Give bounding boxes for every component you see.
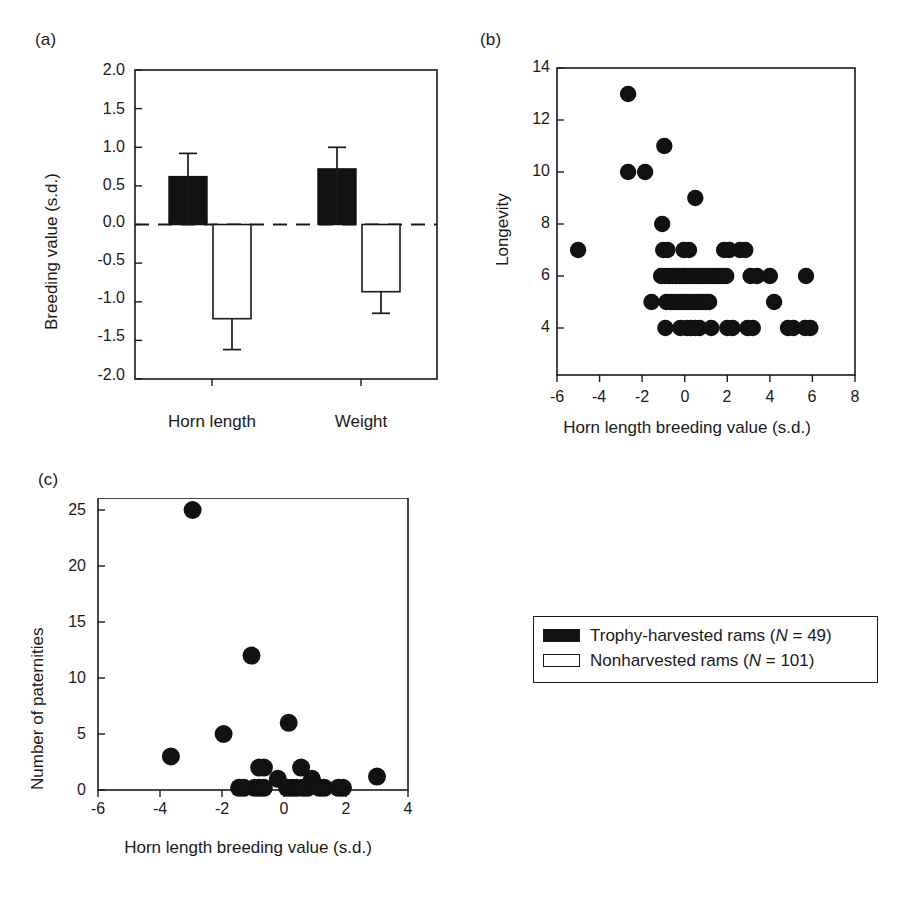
panel-a-ytick-2.0: 2.0 [63, 61, 125, 79]
panel-a-plot [130, 60, 450, 390]
panel-c-xtick-4: 4 [383, 800, 433, 818]
panel-a-category-weight: Weight [286, 412, 436, 432]
panel-b-xtick-8: 8 [830, 388, 880, 406]
panel-a-ytick-1.5: 1.5 [63, 100, 125, 118]
panel-c-ytick-10: 10 [44, 669, 86, 687]
panel-b-y-axis-title: Longevity [493, 193, 513, 266]
legend-swatch-filled-icon [543, 629, 580, 642]
panel-b: (b) Longevity 14 12 10 8 6 4 [460, 0, 914, 450]
legend-swatch-open-icon [543, 654, 580, 667]
panel-a-ytick-1.0: 1.0 [63, 138, 125, 156]
legend-label-trophy-prefix: Trophy-harvested rams ( [590, 626, 775, 645]
panel-b-ytick-14: 14 [512, 58, 550, 76]
legend-label-nonharvested: Nonharvested rams (N = 101) [590, 651, 814, 671]
legend-label-trophy-italic-n: N [775, 626, 787, 645]
panel-c-ytick-0: 0 [44, 781, 86, 799]
panel-c-xtick-2: 2 [321, 800, 371, 818]
panel-b-ytick-6: 6 [512, 266, 550, 284]
panel-b-plot [550, 58, 910, 388]
panel-a-ytick--1.0: -1.0 [58, 289, 125, 307]
panel-b-ytick-8: 8 [512, 214, 550, 232]
panel-a-ytick-0.5: 0.5 [63, 176, 125, 194]
legend-label-nonharvested-prefix: Nonharvested rams ( [590, 651, 749, 670]
panel-c-xtick--6: -6 [73, 800, 123, 818]
legend-label-trophy-suffix: = 49) [788, 626, 832, 645]
panel-b-points [570, 86, 819, 336]
panel-c-letter: (c) [38, 470, 58, 490]
legend-label-nonharvested-suffix: = 101) [761, 651, 814, 670]
panel-a: (a) Breeding value (s.d.) 2.0 1.5 1.0 0.… [0, 0, 460, 450]
errorbar-horn-nonharvested [223, 319, 241, 350]
panel-c-points [162, 501, 386, 797]
panel-c-plot [90, 498, 430, 818]
panel-c-ytick-20: 20 [44, 557, 86, 575]
panel-a-letter: (a) [35, 30, 56, 50]
panel-b-ytick-4: 4 [512, 318, 550, 336]
panel-c-xtick--2: -2 [197, 800, 247, 818]
panel-c-xtick-0: 0 [259, 800, 309, 818]
panel-c-ytick-5: 5 [44, 725, 86, 743]
legend-label-trophy-harvested: Trophy-harvested rams (N = 49) [590, 626, 832, 646]
legend-label-nonharvested-italic-n: N [749, 651, 761, 670]
panel-c: (c) Number of paternities 25 20 15 10 5 … [0, 450, 460, 904]
panel-c-ytick-25: 25 [44, 501, 86, 519]
panel-a-ytick--2.0: -2.0 [58, 366, 125, 384]
panel-a-ytick-0.0: 0.0 [63, 213, 125, 231]
panel-b-ytick-12: 12 [512, 110, 550, 128]
panel-b-x-axis-title: Horn length breeding value (s.d.) [517, 418, 857, 438]
bar-horn-nonharvested [213, 225, 251, 319]
panel-c-x-axis-title: Horn length breeding value (s.d.) [78, 838, 418, 858]
panel-c-ytick-15: 15 [44, 613, 86, 631]
legend-item-trophy-harvested: Trophy-harvested rams (N = 49) [543, 623, 867, 648]
errorbar-weight-nonharvested [372, 292, 390, 314]
panel-a-ytick--0.5: -0.5 [58, 251, 125, 269]
legend-item-nonharvested: Nonharvested rams (N = 101) [543, 648, 867, 673]
panel-b-ytick-10: 10 [512, 162, 550, 180]
panel-c-xtick--4: -4 [135, 800, 185, 818]
panel-b-letter: (b) [480, 30, 501, 50]
bar-weight-nonharvested [362, 225, 400, 292]
panel-c-y-axis-title: Number of paternities [28, 627, 48, 790]
panel-a-category-horn-length: Horn length [137, 412, 287, 432]
panel-a-ytick--1.5: -1.5 [58, 327, 125, 345]
figure-legend: Trophy-harvested rams (N = 49) Nonharves… [533, 616, 878, 683]
